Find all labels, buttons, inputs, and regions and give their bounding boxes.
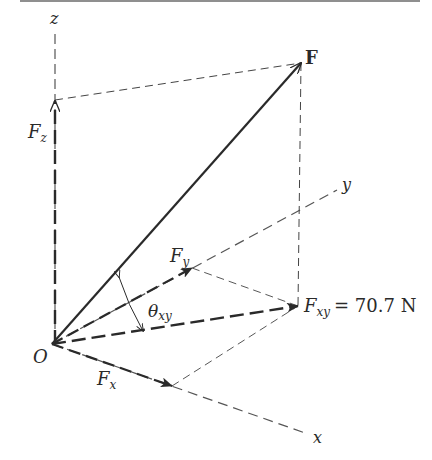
projection-f-to-fxy	[298, 63, 301, 306]
y-axis-label: y	[341, 175, 352, 194]
fx-label: Fx	[96, 368, 117, 392]
theta-label: θxy	[148, 301, 172, 323]
projection-fy-to-fxy	[192, 268, 298, 306]
theta-angle-arc	[119, 277, 143, 331]
fz-label: Fz	[27, 121, 48, 145]
force-vector	[52, 63, 301, 344]
x-axis-label: x	[313, 428, 322, 447]
z-axis-label: z	[49, 9, 59, 28]
fy-label: Fy	[169, 245, 190, 269]
projection-fz-to-f	[55, 63, 301, 100]
force-diagram: z y x O F Fz Fy Fx θxy Fxy= 70.7 N	[0, 0, 432, 460]
force-label: F	[305, 47, 318, 68]
origin-label: O	[33, 346, 48, 367]
fxy-label: Fxy= 70.7 N	[303, 295, 416, 319]
projection-fx-to-fxy	[172, 306, 298, 386]
